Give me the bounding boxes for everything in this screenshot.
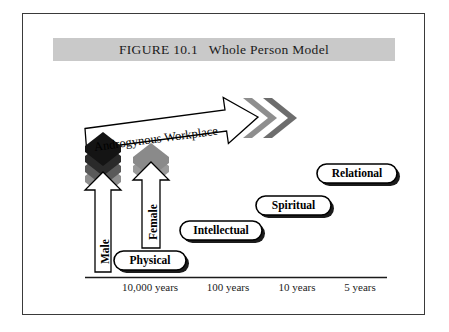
pill-label-intellectual: Intellectual bbox=[180, 224, 262, 236]
female-arrow-label: Female bbox=[147, 204, 159, 240]
pill-label-spiritual: Spiritual bbox=[256, 199, 331, 211]
pill-label-physical: Physical bbox=[114, 254, 186, 266]
pill-label-relational: Relational bbox=[317, 167, 397, 179]
male-arrow-label: Male bbox=[99, 239, 111, 264]
axis-tick-label-3: 10 years bbox=[268, 281, 326, 293]
axis-tick-label-2: 100 years bbox=[196, 281, 260, 293]
axis-tick-label-4: 5 years bbox=[333, 281, 387, 293]
figure-root: FIGURE 10.1 Whole Person Model bbox=[0, 0, 449, 332]
axis-tick-label-1: 10,000 years bbox=[110, 281, 190, 293]
